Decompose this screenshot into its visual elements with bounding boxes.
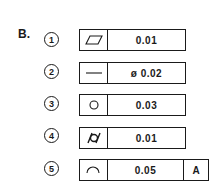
- feature-control-frame-2: ø 0.02: [79, 62, 186, 84]
- straightness-icon: [80, 63, 108, 83]
- feature-control-frame-3: 0.03: [79, 94, 186, 116]
- feature-control-frame-1: 0.01: [79, 29, 186, 51]
- item-number-2: 2: [44, 64, 59, 79]
- tolerance-value: 0.05: [108, 160, 184, 180]
- cylindricity-icon: [80, 128, 108, 148]
- item-number-5: 5: [44, 161, 59, 176]
- circularity-icon: [80, 95, 108, 115]
- section-label: B.: [18, 27, 30, 41]
- tolerance-value: 0.01: [108, 30, 185, 50]
- feature-control-frame-4: 0.01: [79, 127, 186, 149]
- tolerance-value: 0.03: [108, 95, 185, 115]
- profile-of-line-icon: [80, 160, 108, 180]
- item-number-3: 3: [44, 96, 59, 111]
- tolerance-value: 0.01: [108, 128, 185, 148]
- tolerance-value: ø 0.02: [108, 63, 185, 83]
- item-number-4: 4: [44, 128, 59, 143]
- datum-reference: A: [184, 160, 208, 180]
- flatness-icon: [80, 30, 108, 50]
- item-number-1: 1: [44, 32, 59, 47]
- feature-control-frame-5: 0.05 A: [79, 159, 209, 181]
